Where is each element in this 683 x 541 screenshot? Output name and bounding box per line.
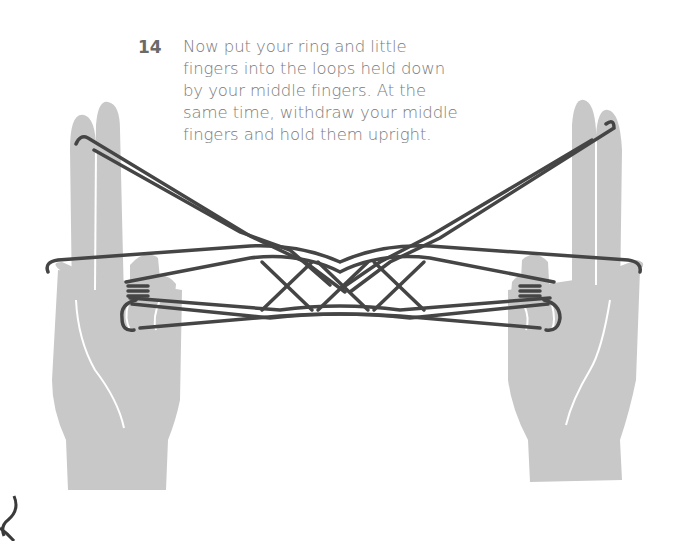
instruction-line: same time, withdraw your middle [183, 102, 523, 124]
instruction-line: by your middle fingers. At the [183, 80, 523, 102]
step-number: 14 [138, 36, 161, 58]
left-hand [52, 102, 182, 490]
instruction-line: fingers into the loops held down [183, 58, 523, 80]
string-loops [47, 122, 640, 331]
step-instruction: 14 Now put your ring and little fingers … [183, 36, 523, 146]
corner-string-fragment [0, 496, 16, 541]
instruction-line: Now put your ring and little [183, 36, 523, 58]
instruction-line: fingers and hold them upright. [183, 124, 523, 146]
